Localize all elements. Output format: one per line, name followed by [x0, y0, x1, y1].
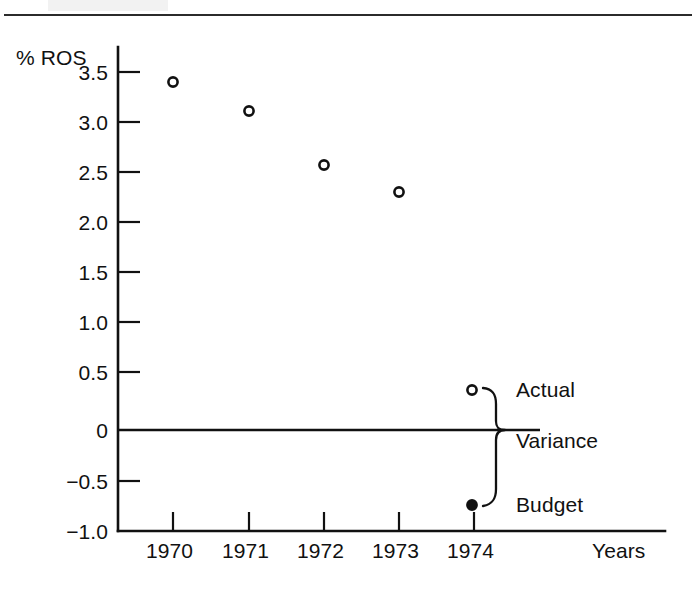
y-tick-label-2.5: 2.5 [24, 162, 108, 183]
y-tick-label-0: 0 [24, 420, 108, 441]
callout-variance-label: Variance [516, 430, 598, 451]
y-tick-label-minus-1.0: −1.0 [24, 521, 108, 542]
y-tick-label-minus-0.5: −0.5 [24, 471, 108, 492]
callout-budget-label: Budget [516, 494, 583, 515]
y-tick-label-1.5: 1.5 [24, 262, 108, 283]
chart-figure: % ROS 3.5 3.0 2.5 2.0 1.5 1.0 0.5 0 −0.5… [0, 0, 695, 591]
y-tick-label-1.0: 1.0 [24, 312, 108, 333]
x-tick-label-1970: 1970 [146, 540, 193, 561]
data-point-1971-actual [244, 106, 253, 115]
data-point-1972-actual [319, 160, 328, 169]
y-tick-label-3.5: 3.5 [24, 62, 108, 83]
x-tick-label-1974: 1974 [447, 540, 494, 561]
scatter-plot-canvas [0, 0, 695, 591]
y-axis-ticks [118, 72, 140, 481]
x-axis-ticks [173, 512, 474, 531]
series-budget-points [467, 500, 477, 510]
data-point-1974-actual [467, 385, 476, 394]
y-tick-label-3.0: 3.0 [24, 112, 108, 133]
series-actual-points [168, 77, 476, 394]
y-tick-label-2.0: 2.0 [24, 212, 108, 233]
data-point-1973-actual [394, 187, 403, 196]
x-tick-label-1971: 1971 [222, 540, 269, 561]
y-tick-label-0.5: 0.5 [24, 362, 108, 383]
x-axis-title: Years [592, 540, 645, 561]
data-point-1970-actual [168, 77, 177, 86]
x-tick-label-1972: 1972 [297, 540, 344, 561]
variance-brace [483, 388, 505, 506]
data-point-1974-budget [467, 500, 477, 510]
x-tick-label-1973: 1973 [372, 540, 419, 561]
callout-actual-label: Actual [516, 379, 575, 400]
